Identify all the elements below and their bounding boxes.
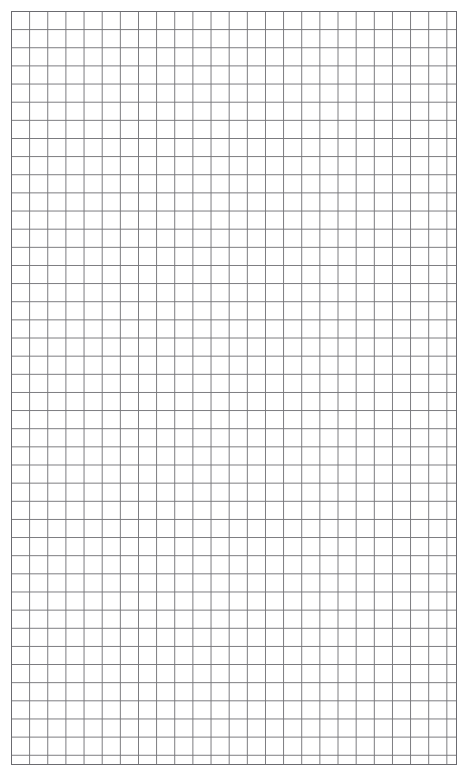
graph-paper-sheet	[0, 0, 469, 778]
page-margin-right	[457, 0, 469, 778]
page-margin-left	[0, 0, 11, 778]
page-margin-bottom	[0, 765, 469, 778]
page-margin-top	[0, 0, 469, 11]
square-grid	[11, 11, 457, 765]
